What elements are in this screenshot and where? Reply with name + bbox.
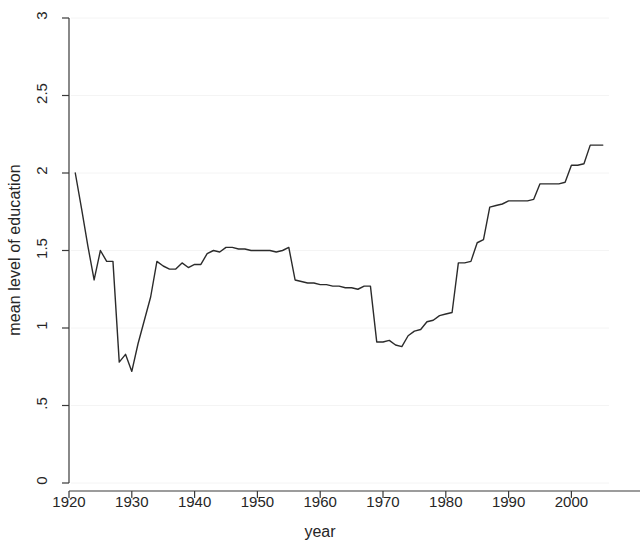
tick-marks — [62, 18, 571, 498]
x-tick-label: 2000 — [541, 493, 601, 510]
y-tick-label: 1.5 — [24, 240, 58, 257]
y-tick-label-text: 1.5 — [32, 238, 49, 259]
x-tick-label: 1970 — [353, 493, 413, 510]
y-tick-label: 3 — [24, 7, 58, 24]
x-tick-label: 1940 — [165, 493, 225, 510]
y-tick-label: .5 — [24, 395, 58, 412]
x-tick-label: 1920 — [39, 493, 99, 510]
x-tick-label: 1930 — [102, 493, 162, 510]
plot-area — [0, 0, 640, 555]
y-tick-label-text: .5 — [32, 397, 49, 410]
y-tick-label: 0 — [24, 472, 58, 489]
y-tick-label-text: 1 — [33, 321, 50, 329]
x-tick-label: 1990 — [479, 493, 539, 510]
y-tick-label-text: 2 — [33, 166, 50, 174]
y-tick-label-text: 2.5 — [32, 83, 49, 104]
y-tick-label-text: 0 — [33, 476, 50, 484]
y-tick-label: 2.5 — [24, 85, 58, 102]
axis-lines — [69, 18, 640, 491]
y-tick-label: 1 — [24, 317, 58, 334]
x-axis-title-text: year — [304, 523, 335, 540]
x-tick-label: 1950 — [227, 493, 287, 510]
x-axis-title: year — [0, 523, 640, 541]
chart-figure: mean level of education 0.511.522.53 192… — [0, 0, 640, 555]
series-line-0 — [75, 145, 603, 371]
x-tick-label: 1960 — [290, 493, 350, 510]
x-tick-label: 1980 — [416, 493, 476, 510]
y-tick-label-text: 3 — [33, 11, 50, 19]
y-tick-label: 2 — [24, 162, 58, 179]
data-series — [75, 145, 603, 371]
gridlines — [71, 18, 609, 483]
